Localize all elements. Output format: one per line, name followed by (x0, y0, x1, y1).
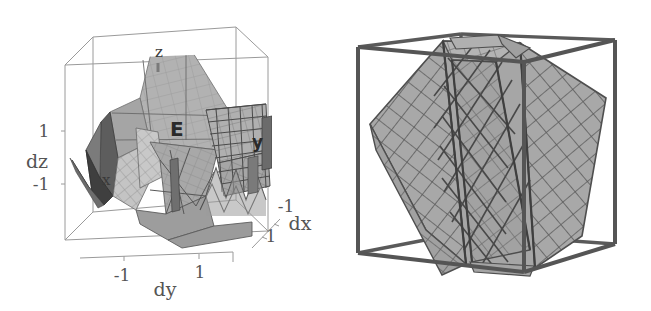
dy-axis-line (80, 252, 233, 262)
figure-root: z x y E 1 -1 dz -1 1 dy (0, 0, 651, 311)
dy-axis-label: dy (154, 278, 177, 300)
left-surface-plot: z x y E 1 -1 dz -1 1 dy (0, 0, 330, 311)
dx-axis-label: dx (289, 212, 312, 234)
dz-tick-marks (61, 131, 65, 184)
surface-label-y: y (252, 132, 263, 152)
surface-facet-dark (248, 156, 258, 194)
dy-tick-positive: 1 (195, 262, 206, 282)
dz-tick-negative: -1 (33, 174, 50, 194)
dz-axis-label: dz (26, 150, 48, 172)
surface-label-x: x (102, 171, 111, 189)
surface-label-z: z (155, 43, 163, 61)
surface-facet-dark (262, 116, 272, 170)
surface-facet-dark (170, 158, 180, 212)
axis-dy: -1 1 dy (80, 252, 233, 300)
cube-surface-body (370, 35, 606, 276)
surface-center-glyph: E (170, 117, 183, 141)
right-cube-plot (330, 0, 651, 311)
axis-dz: 1 -1 dz (26, 121, 65, 194)
dz-tick-positive: 1 (39, 121, 50, 141)
dy-tick-negative: -1 (114, 265, 131, 285)
